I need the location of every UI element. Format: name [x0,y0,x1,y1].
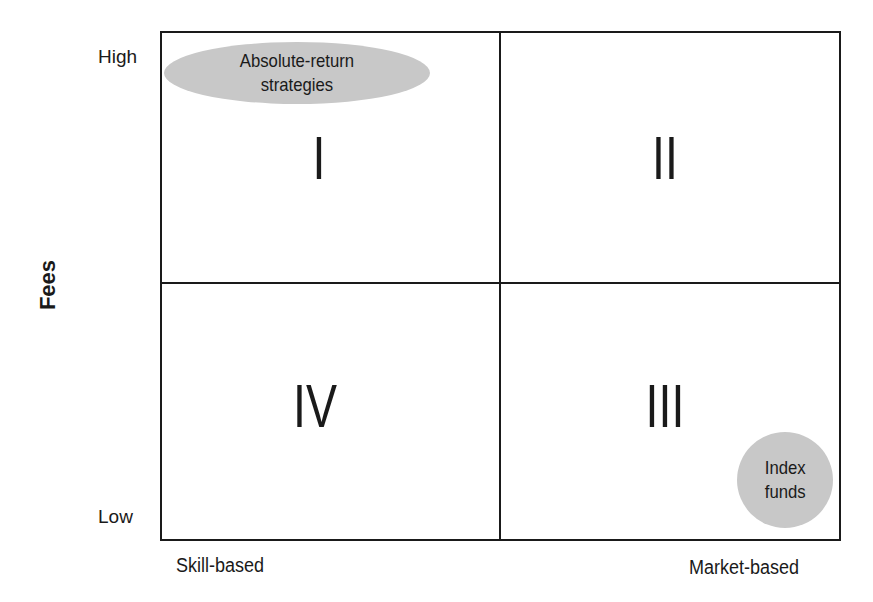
y-axis-title: Fees [35,255,65,315]
ellipse-text-line2: strategies [240,73,354,97]
y-axis-high-label: High [98,46,137,68]
circle-text-line2: funds [765,480,806,504]
vertical-divider [499,31,501,541]
horizontal-divider [160,282,841,284]
ellipse-text-line1: Absolute-return [240,49,354,73]
index-funds-circle: Index funds [737,432,833,528]
circle-text-line1: Index [765,456,806,480]
quadrant-label-ii: II [620,127,710,189]
quadrant-label-i: I [274,127,364,189]
x-axis-right-label: Market-based [689,556,799,579]
absolute-return-strategies-ellipse: Absolute-return strategies [164,42,430,104]
x-axis-left-label: Skill-based [176,554,264,577]
y-axis-low-label: Low [98,506,133,528]
quadrant-label-iii: III [620,375,710,437]
quadrant-label-iv: IV [270,375,360,437]
